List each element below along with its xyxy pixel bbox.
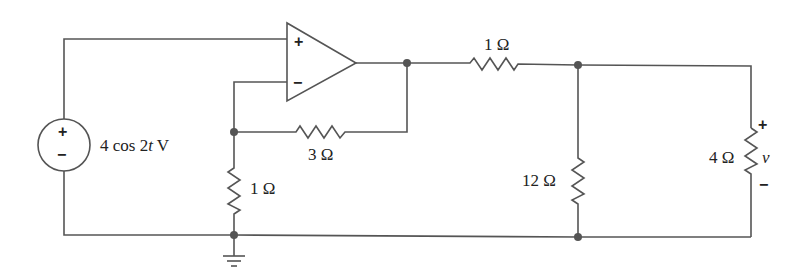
wire-source-to-ground-rail	[64, 171, 234, 235]
resistor-12ohm	[572, 65, 584, 237]
wire-minus-input-to-node	[234, 82, 287, 132]
source-plus-sign: +	[58, 123, 67, 140]
resistor-12ohm-label: 12 Ω	[522, 171, 556, 190]
opamp: + −	[287, 23, 356, 101]
resistor-1ohm-ground	[228, 132, 240, 235]
ground-icon	[223, 235, 245, 266]
junction-top-right-node	[574, 61, 582, 69]
junction-ground-node	[230, 231, 238, 239]
resistor-3ohm-label: 3 Ω	[308, 145, 333, 164]
circuit-diagram: + − 4 cos 2t V + − 3 Ω 1 Ω 1 Ω 12 Ω 4 Ω …	[0, 0, 812, 280]
wire-source-to-plus-input	[64, 39, 287, 119]
resistor-1ohm-series	[407, 58, 578, 70]
source-label: 4 cos 2t V	[100, 136, 170, 155]
resistor-1ohm-series-label: 1 Ω	[484, 35, 509, 54]
output-plus-sign: +	[758, 116, 767, 133]
wire-bottom-rail	[234, 235, 751, 237]
opamp-minus-input-sign: −	[293, 74, 302, 91]
output-minus-sign: −	[759, 176, 768, 193]
output-voltage-v: v	[762, 148, 770, 167]
voltage-source: + −	[38, 119, 90, 171]
resistor-4ohm-label: 4 Ω	[709, 148, 734, 167]
resistor-4ohm-load	[745, 128, 757, 237]
resistor-1ohm-ground-label: 1 Ω	[250, 179, 275, 198]
source-minus-sign: −	[57, 146, 66, 163]
wire-top-right	[578, 65, 751, 128]
junction-bottom-right-node	[574, 233, 582, 241]
junction-output-node	[403, 59, 411, 67]
opamp-plus-input-sign: +	[294, 33, 303, 50]
junction-inverting-node	[230, 128, 238, 136]
